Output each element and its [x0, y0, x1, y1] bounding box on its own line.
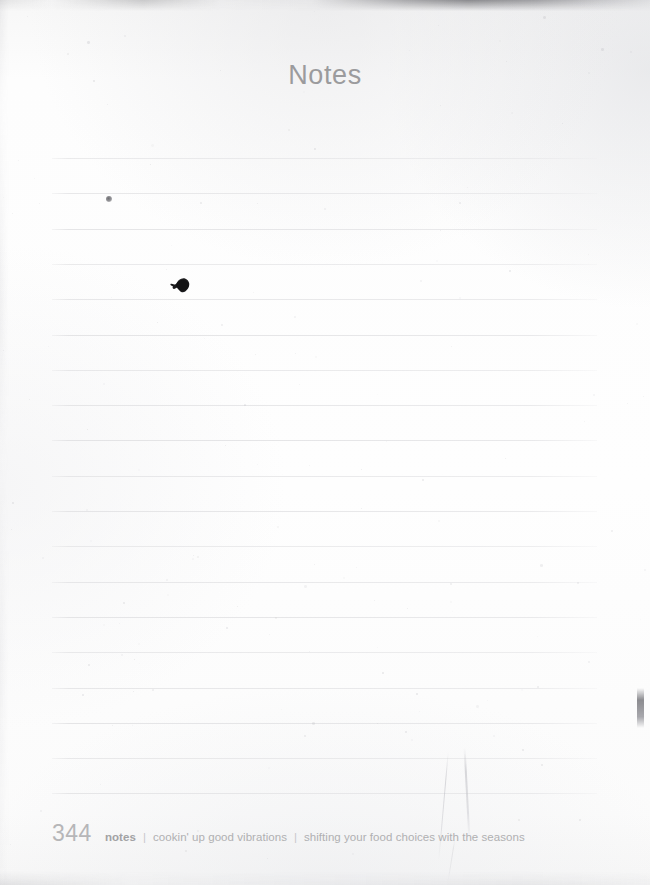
scan-speck	[304, 735, 306, 737]
scan-speck	[343, 577, 345, 579]
scan-speck	[117, 283, 118, 284]
scan-speck	[377, 647, 378, 648]
scan-speck	[132, 725, 133, 726]
scan-speck	[588, 661, 590, 663]
ruled-line	[52, 335, 597, 336]
ruled-line	[52, 158, 597, 159]
scan-speck	[40, 810, 42, 812]
ruled-line	[52, 370, 597, 371]
scan-speck	[543, 16, 546, 19]
scan-speck	[420, 280, 422, 282]
scan-speck	[86, 509, 88, 511]
scanned-notes-page: Notes 344 notes | cookin' up good vibrat…	[0, 0, 650, 885]
footer-section-label: notes	[105, 831, 136, 843]
page-footer: 344 notes | cookin' up good vibrations |…	[52, 820, 525, 847]
scan-speck	[257, 203, 258, 204]
scan-speck	[124, 35, 126, 37]
ruled-line	[52, 546, 597, 547]
scan-speck	[509, 270, 511, 272]
bottom-scan-edge	[0, 871, 650, 885]
scan-speck	[39, 203, 40, 204]
scan-speck	[377, 723, 378, 724]
scan-speck	[18, 160, 19, 161]
ink-dot-mark	[106, 196, 112, 202]
scan-speck	[352, 853, 354, 855]
scan-speck	[416, 693, 418, 695]
scan-speck	[139, 663, 140, 664]
scan-speck	[294, 316, 296, 318]
scan-speck	[244, 404, 246, 406]
ruled-line	[52, 723, 597, 724]
ink-blot-mark	[170, 277, 191, 294]
scan-speck	[476, 705, 479, 708]
scan-speck	[103, 624, 105, 626]
scan-speck	[281, 709, 282, 710]
scan-speck	[200, 202, 202, 204]
scan-speck	[166, 579, 168, 581]
scan-speck	[269, 634, 270, 635]
scan-speck	[522, 749, 524, 751]
scan-speck	[630, 51, 632, 53]
scan-speck	[133, 691, 134, 692]
scan-speck	[409, 50, 410, 51]
footer-breadcrumb-book: cookin' up good vibrations	[153, 831, 287, 843]
scan-speck	[601, 48, 604, 51]
ruled-line	[52, 476, 597, 477]
scan-speck	[324, 208, 326, 210]
scan-speck	[151, 144, 154, 147]
ruled-line	[52, 511, 597, 512]
ruled-line	[52, 405, 597, 406]
ruled-line	[52, 193, 597, 194]
scan-speck	[312, 722, 315, 725]
scan-speck	[48, 346, 49, 347]
scan-speck	[541, 764, 543, 766]
scan-speck	[584, 421, 585, 422]
footer-separator-2: |	[294, 831, 297, 843]
ruled-line	[52, 299, 597, 300]
ruled-line	[52, 793, 597, 794]
scan-speck	[438, 25, 439, 26]
scan-speck	[185, 850, 187, 852]
ruled-line	[52, 264, 597, 265]
scan-speck	[540, 564, 543, 567]
scan-speck	[112, 725, 113, 726]
page-title: Notes	[0, 60, 650, 91]
scan-speck	[588, 254, 589, 255]
scan-speck	[119, 623, 120, 624]
scan-speck	[225, 445, 226, 446]
scan-speck	[134, 659, 135, 660]
scan-speck	[111, 297, 112, 298]
ruled-line	[52, 617, 597, 618]
scan-speck	[304, 585, 307, 588]
scan-speck	[87, 41, 90, 44]
scan-speck	[152, 689, 154, 691]
scan-speck	[87, 429, 88, 430]
footer-separator-1: |	[143, 831, 146, 843]
scan-speck	[88, 664, 90, 666]
page-number: 344	[52, 820, 92, 847]
scan-speck	[450, 601, 452, 603]
scan-speck	[511, 112, 513, 114]
ruled-line	[52, 440, 597, 441]
right-edge-smudge	[637, 688, 644, 728]
scan-speck	[577, 582, 579, 584]
scan-speck	[452, 611, 453, 612]
ruled-line	[52, 582, 597, 583]
scan-speck	[521, 689, 523, 691]
ruled-line	[52, 758, 597, 759]
left-scan-edge	[0, 0, 9, 885]
scan-speck	[288, 129, 290, 131]
scan-speck	[257, 464, 258, 465]
ruled-line	[52, 229, 597, 230]
top-scan-edge	[0, 0, 650, 11]
scan-speck	[314, 148, 316, 150]
scan-speck	[314, 564, 315, 565]
scan-speck	[138, 469, 140, 471]
footer-breadcrumb-chapter: shifting your food choices with the seas…	[304, 831, 525, 843]
ruled-line	[52, 688, 597, 689]
scan-speck	[192, 558, 194, 560]
paper-background	[0, 0, 650, 885]
ruled-line	[52, 652, 597, 653]
scan-speck	[221, 324, 223, 326]
scan-speck	[382, 672, 384, 674]
